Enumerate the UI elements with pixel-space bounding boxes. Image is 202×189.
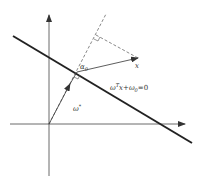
diagram-canvas: α0 x ωTx+ω0=0 ω* bbox=[0, 0, 202, 189]
angle-label: α0 bbox=[80, 63, 89, 72]
right-angle-marker-top bbox=[94, 37, 100, 41]
weight-vector-arrow bbox=[49, 84, 70, 124]
projection-dashed-line bbox=[96, 35, 138, 58]
weight-vector-label: ω* bbox=[73, 103, 82, 113]
hyperplane-line bbox=[13, 36, 192, 143]
point-x-label: x bbox=[135, 62, 139, 70]
hyperplane-equation-label: ωTx+ω0=0 bbox=[110, 82, 148, 93]
